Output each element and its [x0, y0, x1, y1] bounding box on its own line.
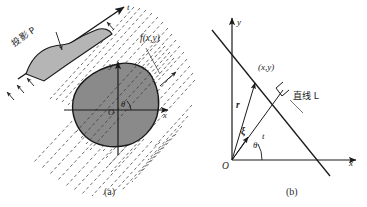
y-axis-label-b: y	[237, 17, 241, 27]
xi-label: ξ	[241, 126, 245, 136]
t-axis-label-a: t	[127, 2, 130, 12]
y-axis-label-a: y	[109, 60, 113, 70]
line-L-label: 直线 L	[293, 89, 319, 102]
object-shape-fxy	[73, 63, 159, 147]
right-angle-mark	[276, 88, 289, 96]
caption-a: (a)	[104, 186, 115, 197]
theta-label-b: θ	[253, 140, 257, 150]
fxy-label: f(x,y)	[140, 33, 160, 43]
x-axis-label-b: x	[349, 158, 353, 168]
x-axis-label-a: x	[163, 110, 167, 120]
vector-r	[232, 83, 255, 160]
line-L	[212, 30, 330, 176]
r-label: r	[236, 100, 240, 110]
origin-label-b: O	[222, 161, 229, 171]
origin-label-a: O	[108, 107, 114, 117]
theta-label-a: θ	[121, 99, 125, 109]
panel-b	[212, 18, 356, 176]
right-angle-mark-inner	[276, 82, 283, 88]
figure-canvas	[0, 0, 367, 207]
t-label-b: t	[262, 131, 265, 141]
point-xy-label: (x,y)	[258, 62, 274, 72]
caption-b: (b)	[286, 186, 298, 197]
angle-arc-b	[258, 144, 262, 160]
